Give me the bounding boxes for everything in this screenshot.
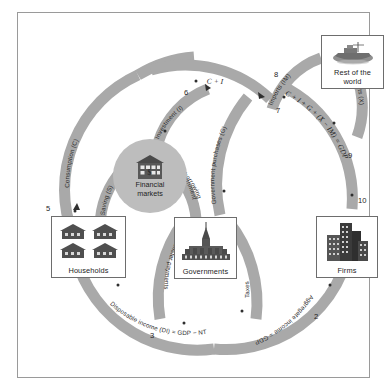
flow-label-taxes: Taxes: [243, 281, 251, 298]
band-government-purchases: [217, 97, 248, 215]
node-number-8: 8: [274, 70, 278, 79]
node-number-7: 7: [276, 106, 280, 115]
cargo-ship-icon: [331, 41, 375, 65]
households-label: Households: [68, 267, 108, 275]
firms-art: [324, 217, 370, 267]
rest-of-world-art: [331, 36, 375, 69]
houses-icon: [60, 222, 118, 262]
parliament-building-icon: [179, 222, 233, 264]
node-number-5: 5: [46, 204, 50, 213]
households-art: [60, 217, 118, 267]
firms-label: Firms: [338, 267, 357, 275]
financial-markets-label: Financial markets: [136, 181, 165, 197]
governments-art: [179, 218, 233, 268]
agent-box-governments[interactable]: Governments: [174, 217, 237, 279]
node-number-3: 3: [150, 331, 154, 340]
node-number-6: 6: [184, 88, 188, 97]
node-number-9: 9: [348, 151, 352, 160]
flow-label-investment: Investment (I): [153, 104, 184, 140]
office-buildings-icon: [324, 221, 370, 263]
governments-label: Governments: [183, 268, 228, 276]
agent-box-firms[interactable]: Firms: [316, 216, 378, 278]
rest-of-world-label: Rest of the world: [334, 69, 371, 86]
node-number-2: 2: [314, 312, 318, 321]
financial-markets-node[interactable]: $ Financial markets: [113, 139, 187, 213]
flow-label-consumption: Consumption (C): [63, 138, 79, 188]
agent-box-rest-of-world[interactable]: Rest of the world: [321, 35, 384, 89]
flow-label-gdp-expenditure: C + I + G + (X − IM) = GDP: [284, 89, 351, 161]
svg-text:$: $: [148, 168, 152, 177]
bank-building-icon: $: [135, 154, 165, 180]
node-number-10: 10: [358, 196, 366, 205]
flow-label-c-plus-i: C + I: [207, 77, 224, 86]
financial-markets-label-line2: markets: [136, 190, 165, 198]
rest-of-world-label-line2: world: [334, 78, 371, 86]
band-investment: [158, 89, 208, 143]
figure-frame: Consumption (C) Saving (S) Investment (I…: [17, 12, 370, 378]
circular-flow-canvas: Consumption (C) Saving (S) Investment (I…: [18, 13, 369, 377]
agent-box-households[interactable]: Households: [51, 216, 126, 278]
